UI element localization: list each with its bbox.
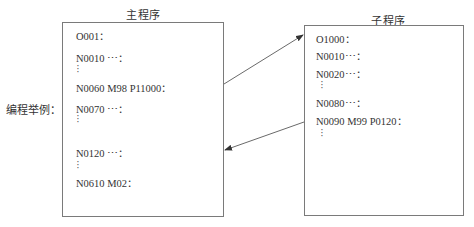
return-arrow [225,122,304,150]
connector-arrows [0,0,474,227]
call-arrow [224,35,303,84]
